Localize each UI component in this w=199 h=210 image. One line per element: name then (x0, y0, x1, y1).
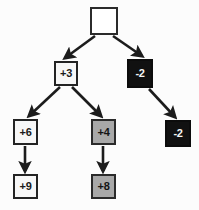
tree-node-label: +4 (98, 127, 110, 138)
tree-node-n_p8[interactable]: +8 (91, 174, 116, 199)
tree-node-n_p3[interactable]: +3 (54, 61, 78, 86)
tree-node-label: +3 (60, 68, 72, 79)
edge-group (25, 36, 175, 171)
edge-root-to-n_p3 (65, 36, 95, 58)
tree-node-label: +6 (20, 127, 32, 138)
tree-node-n_m2b[interactable]: -2 (165, 120, 191, 147)
edge-n_p3-to-n_p6 (29, 87, 60, 116)
diagram-canvas: +3-2+6+4-2+9+8 (0, 0, 199, 210)
edge-n_p3-to-n_p4 (72, 87, 101, 116)
tree-node-root[interactable] (90, 7, 118, 35)
tree-node-n_p4[interactable]: +4 (91, 119, 116, 145)
edge-root-to-n_m2a (113, 36, 142, 56)
tree-node-label: +9 (20, 181, 32, 192)
tree-node-n_p6[interactable]: +6 (13, 119, 38, 145)
tree-node-label: +8 (98, 181, 110, 192)
edge-n_m2a-to-n_m2b (149, 89, 175, 117)
tree-node-n_m2a[interactable]: -2 (127, 59, 153, 88)
tree-node-label: -2 (135, 68, 144, 79)
tree-node-n_p9[interactable]: +9 (13, 174, 38, 199)
tree-node-label: -2 (173, 128, 182, 139)
